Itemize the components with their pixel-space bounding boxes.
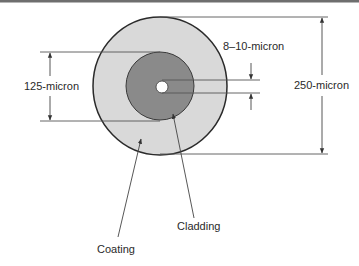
fiber-cross-section-diagram: 125-micron 250-micron 8–10-micron Coatin… — [0, 0, 359, 266]
cladding-diameter-label: 125-micron — [24, 80, 79, 92]
core-circle — [156, 81, 168, 93]
coating-callout: Coating — [97, 139, 141, 255]
top-border — [0, 0, 359, 3]
cladding-label: Cladding — [177, 220, 220, 232]
core-diameter-label: 8–10-micron — [223, 40, 284, 52]
coating-label: Coating — [97, 243, 135, 255]
coating-diameter-label: 250-micron — [294, 79, 349, 91]
